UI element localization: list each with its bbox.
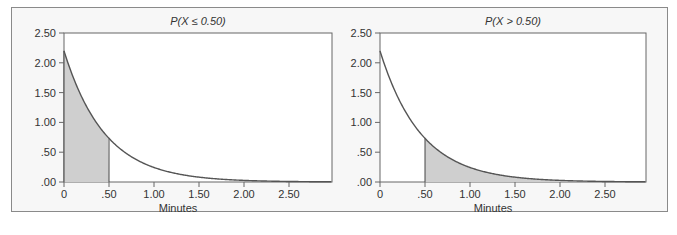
y-tick-label: .00 [357,176,372,188]
x-axis-title: Minutes [474,202,513,214]
x-tick-label: 1.50 [504,188,525,200]
x-tick-label: 2.00 [233,188,254,200]
x-tick-label: 0 [377,188,383,200]
y-tick-label: 2.00 [35,57,56,69]
x-tick-label: 2.50 [594,188,615,200]
y-tick-label: 2.00 [351,57,372,69]
y-tick-label: 2.50 [351,27,372,39]
chart-canvas: .00.501.001.502.002.500.501.001.502.002.… [0,0,677,235]
y-tick-label: 2.50 [35,27,56,39]
plot-area [380,33,646,182]
x-tick-label: 2.00 [549,188,570,200]
chart-title: P(X > 0.50) [485,15,541,27]
y-tick-label: 1.00 [351,116,372,128]
x-tick-label: 1.50 [188,188,209,200]
y-tick-label: 1.50 [35,87,56,99]
y-tick-label: .50 [357,146,372,158]
x-tick-label: 0 [61,188,67,200]
x-axis-title: Minutes [159,202,198,214]
y-tick-label: .50 [41,146,56,158]
y-tick-label: .00 [41,176,56,188]
y-tick-label: 1.50 [351,87,372,99]
x-tick-label: .50 [101,188,116,200]
x-tick-label: .50 [417,188,432,200]
x-tick-label: 1.00 [459,188,480,200]
x-tick-label: 1.00 [143,188,164,200]
y-tick-label: 1.00 [35,116,56,128]
x-tick-label: 2.50 [278,188,299,200]
chart-title: P(X ≤ 0.50) [170,15,226,27]
